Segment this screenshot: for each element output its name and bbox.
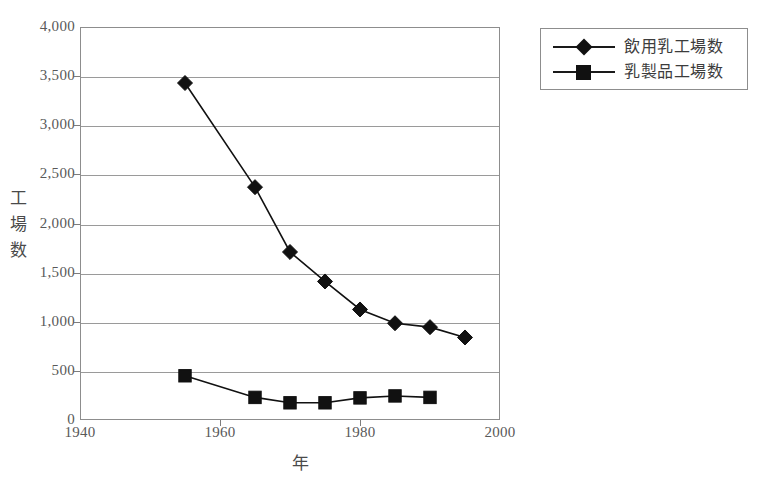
x-tick-mark: [360, 420, 361, 426]
square-marker-icon: [553, 62, 615, 82]
diamond-marker-icon: [553, 37, 615, 57]
y-tick-label: 2,000: [40, 216, 75, 231]
y-axis-title-char-2: 数: [6, 238, 32, 264]
y-tick-label: 1,000: [40, 314, 75, 329]
gridline: [81, 323, 499, 324]
gridline: [81, 372, 499, 373]
y-axis-title-char-1: 場: [6, 212, 32, 238]
x-tick-label: 1940: [50, 424, 110, 440]
y-tick-label: 500: [52, 363, 75, 378]
chart-legend: 飲用乳工場数 乳製品工場数: [540, 28, 748, 90]
y-axis-title-char-0: 工: [6, 186, 32, 212]
gridline: [81, 274, 499, 275]
legend-item-0-label: 飲用乳工場数: [624, 37, 723, 57]
y-tick-label: 4,000: [40, 19, 75, 34]
legend-item-1-label: 乳製品工場数: [624, 62, 723, 82]
x-axis-title: 年: [260, 449, 340, 474]
gridline: [81, 225, 499, 226]
x-tick-label: 1980: [330, 424, 390, 440]
y-tick-label: 3,000: [40, 117, 75, 132]
legend-item-0: 飲用乳工場数: [553, 35, 723, 59]
x-tick-label: 1960: [190, 424, 250, 440]
y-tick-label: 2,500: [40, 166, 75, 181]
y-axis-title: 工 場 数: [6, 186, 32, 264]
x-tick-mark: [220, 420, 221, 426]
gridline: [81, 175, 499, 176]
y-tick-label: 1,500: [40, 265, 75, 280]
y-tick-label: 3,500: [40, 68, 75, 83]
legend-item-1: 乳製品工場数: [553, 60, 723, 84]
chart-container: 工 場 数 05001,0001,5002,0002,5003,0003,500…: [0, 0, 769, 487]
gridline: [81, 77, 499, 78]
gridline: [81, 126, 499, 127]
plot-area: [80, 27, 500, 420]
x-tick-label: 2000: [470, 424, 530, 440]
